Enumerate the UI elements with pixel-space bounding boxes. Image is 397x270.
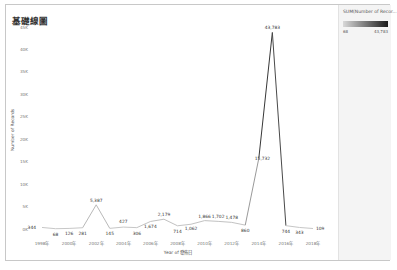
x-tick-label: 2010年: [197, 240, 212, 247]
x-tick-label: 2008年: [170, 240, 185, 247]
x-tick-label: 2016年: [279, 240, 294, 247]
line-segment: [272, 32, 286, 225]
y-tick-label: 15K: [20, 159, 28, 164]
y-tick-label: 5K: [23, 204, 29, 209]
y-tick-label: 10K: [20, 182, 28, 187]
data-point-label: 343: [295, 230, 304, 235]
data-point-label: 126: [65, 231, 74, 236]
line-segment: [69, 228, 83, 229]
data-labels: 344681262815,3871454273061,6742,1797141,…: [28, 25, 325, 236]
x-tick-label: 2006年: [143, 240, 158, 247]
data-point-label: 68: [53, 232, 59, 237]
y-tick-label: 45K: [20, 25, 28, 30]
data-point-label: 860: [241, 228, 250, 233]
x-tick-label: 1998年: [35, 240, 50, 247]
line-series: [42, 32, 313, 228]
y-tick-label: 35K: [20, 69, 28, 74]
line-segment: [42, 227, 56, 228]
line-segment: [259, 32, 273, 158]
line-segment: [191, 221, 205, 225]
x-tick-label: 2000年: [62, 240, 77, 247]
y-tick-label: 40K: [20, 47, 28, 52]
line-segment: [110, 227, 124, 228]
data-point-label: 1,702: [212, 214, 225, 219]
data-point-label: 1,866: [198, 214, 211, 219]
y-axis-ticks: 0K5K10K15K20K25K30K35K40K45K: [20, 25, 28, 232]
data-point-label: 15,732: [255, 156, 271, 161]
line-segment: [96, 205, 110, 229]
line-segment: [123, 227, 137, 228]
data-point-label: 5,387: [90, 198, 103, 203]
y-axis-title: Number of Records: [10, 108, 15, 151]
line-segment: [245, 158, 259, 225]
x-tick-label: 2004年: [116, 240, 131, 247]
data-point-label: 427: [119, 219, 128, 224]
x-tick-label: 2014年: [251, 240, 266, 247]
data-point-label: 1,674: [144, 224, 157, 229]
line-segment: [83, 205, 97, 228]
data-point-label: 744: [282, 229, 291, 234]
line-segment: [164, 219, 178, 226]
data-point-label: 145: [106, 231, 115, 236]
line-segment: [205, 221, 219, 222]
data-point-label: 43,783: [265, 25, 281, 30]
line-segment: [232, 222, 246, 225]
data-point-label: 714: [173, 229, 182, 234]
x-tick-label: 2012年: [224, 240, 239, 247]
x-axis-ticks: 1998年2000年2002年2004年2006年2008年2010年2012年…: [35, 240, 321, 247]
x-tick-label: 2002年: [89, 240, 104, 247]
y-tick-label: 25K: [20, 114, 28, 119]
x-axis-title: Year of 發佈日: [163, 249, 192, 256]
line-segment: [299, 227, 313, 228]
data-point-label: 1,478: [225, 215, 238, 220]
data-point-label: 344: [28, 225, 37, 230]
line-segment: [150, 219, 164, 221]
x-tick-label: 2018年: [306, 240, 321, 247]
line-segment: [218, 221, 232, 222]
line-segment: [286, 226, 300, 228]
data-point-label: 306: [133, 231, 142, 236]
data-point-label: 109: [316, 226, 325, 231]
y-tick-label: 30K: [20, 92, 28, 97]
data-point-label: 281: [78, 231, 87, 236]
data-point-label: 2,179: [158, 212, 171, 217]
y-tick-label: 20K: [20, 137, 28, 142]
data-point-label: 1,062: [185, 226, 198, 231]
